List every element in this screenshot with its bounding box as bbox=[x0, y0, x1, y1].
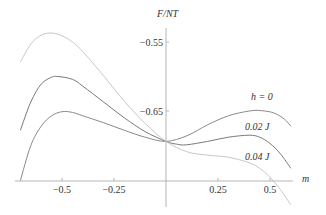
y-tick-label: −0.55 bbox=[140, 37, 163, 48]
curves bbox=[20, 33, 290, 205]
x-tick-label: −0.5 bbox=[53, 184, 71, 195]
curve-label-0.02J: 0.02 J bbox=[245, 121, 270, 132]
y-ticks: −0.55−0.65 bbox=[140, 37, 169, 117]
y-tick-label: −0.65 bbox=[140, 106, 163, 117]
y-axis-title: F/NT bbox=[156, 8, 180, 19]
x-axis-title: m bbox=[302, 173, 309, 184]
curve-label-0.04J: 0.04 J bbox=[245, 151, 270, 162]
x-tick-label: −0.25 bbox=[102, 184, 125, 195]
x-tick-label: 0.25 bbox=[209, 184, 227, 195]
x-tick-label: 0.5 bbox=[264, 184, 277, 195]
curve-0.04J bbox=[20, 33, 290, 205]
curve-label-h0: h = 0 bbox=[251, 91, 273, 102]
chart: −0.5−0.250.250.5 −0.55−0.65 F/NT m h = 0… bbox=[0, 0, 326, 215]
